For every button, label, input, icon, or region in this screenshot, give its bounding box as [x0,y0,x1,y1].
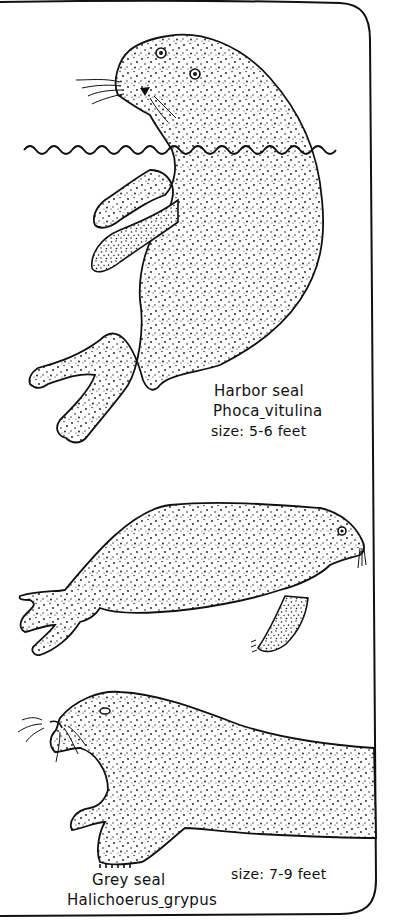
harbor-seal-size: size: 5-6 feet [211,423,306,439]
harbor-seal-common-name: Harbor seal [214,382,304,400]
grey-seal-size: size: 7-9 feet [231,866,326,882]
grey-seal-drawing [18,692,376,868]
harbor-seal-species: vitulina [265,402,323,420]
harbor-seal-genus: Phoca [213,402,260,420]
grey-seal-common-name: Grey seal [92,871,165,889]
harbor-seal-scientific-name: Phoca vitulina [213,402,323,420]
harbor-seal-resting-drawing [20,503,366,655]
grey-seal-species: grypus [164,891,217,909]
grey-seal-genus: Halichoerus [67,891,159,909]
grey-seal-scientific-name: Halichoerus grypus [67,891,217,909]
seal-illustration-page [0,0,396,924]
